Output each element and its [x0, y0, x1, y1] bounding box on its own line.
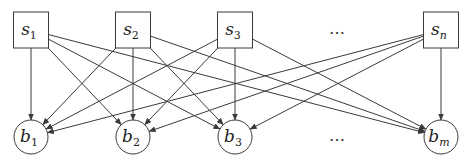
edge-s3-bm — [253, 39, 426, 129]
edge-s3-b1 — [46, 39, 217, 129]
edge-s2-b3 — [150, 48, 223, 125]
source-node-s1: s1 — [14, 12, 49, 48]
ellipsis-bottom: … — [329, 126, 345, 145]
target-node-b2: b2 — [116, 120, 150, 154]
target-node-b1: b1 — [14, 120, 48, 154]
edges — [31, 35, 441, 133]
source-node-sn: sn — [424, 12, 459, 48]
edge-s2-b1 — [43, 48, 116, 125]
target-node-b3: b3 — [218, 120, 252, 154]
target-node-bm: bm — [424, 120, 458, 154]
target-nodes: b1b2b3bm — [14, 120, 458, 154]
edge-s1-b2 — [48, 48, 121, 125]
edge-sn-b3 — [250, 39, 423, 129]
bipartite-graph: s1s2s3sn b1b2b3bm … … — [0, 0, 470, 164]
ellipsis-top: … — [329, 19, 345, 38]
edge-s3-b2 — [145, 48, 218, 125]
source-node-s2: s2 — [116, 12, 151, 48]
source-node-s3: s3 — [218, 12, 253, 48]
